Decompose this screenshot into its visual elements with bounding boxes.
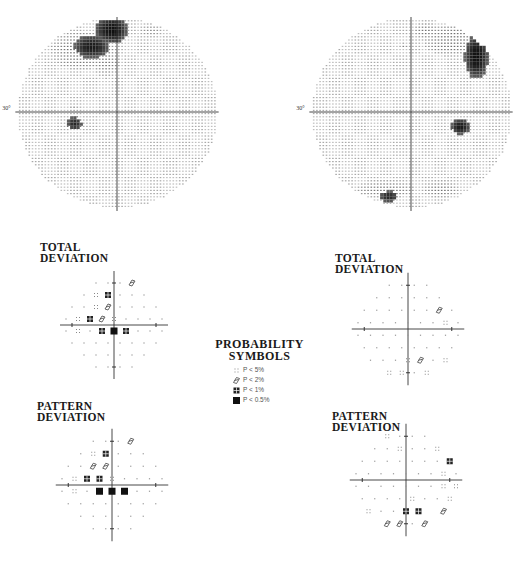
normal-point <box>130 466 131 467</box>
normal-point <box>430 473 431 474</box>
p2-symbol <box>128 438 134 444</box>
normal-point <box>149 318 150 319</box>
normal-point <box>389 285 390 286</box>
normal-point <box>382 322 383 323</box>
normal-point <box>130 516 131 517</box>
normal-point <box>119 366 120 367</box>
p2-symbol <box>441 508 447 514</box>
p05-symbol <box>96 488 103 495</box>
normal-point <box>131 342 132 343</box>
normal-point <box>437 498 438 499</box>
p5-symbol <box>235 368 239 372</box>
normal-point <box>131 306 132 307</box>
normal-point <box>143 516 144 517</box>
normal-point <box>161 478 162 479</box>
normal-point <box>451 347 452 348</box>
normal-point <box>118 466 119 467</box>
normal-point <box>357 335 358 336</box>
normal-point <box>357 322 358 323</box>
normal-point <box>393 511 394 512</box>
normal-point <box>93 441 94 442</box>
normal-point <box>130 528 131 529</box>
normal-point <box>119 294 120 295</box>
normal-point <box>161 318 162 319</box>
normal-point <box>95 282 96 283</box>
p5-symbol <box>444 321 448 325</box>
p2-symbol <box>90 463 96 469</box>
normal-point <box>93 516 94 517</box>
normal-point <box>412 523 413 524</box>
p05-symbol <box>109 488 116 495</box>
axes <box>56 429 169 542</box>
normal-point <box>80 453 81 454</box>
normal-point <box>424 436 425 437</box>
normal-point <box>143 453 144 454</box>
normal-point <box>439 297 440 298</box>
p1-symbol <box>103 451 109 457</box>
normal-point <box>107 366 108 367</box>
eccentricity-label: 30° <box>296 105 305 111</box>
p5-symbol <box>387 371 391 375</box>
normal-point <box>370 335 371 336</box>
right-total-deviation-plot <box>340 270 500 400</box>
normal-point <box>414 297 415 298</box>
p5-symbol <box>400 371 404 375</box>
normal-point <box>399 498 400 499</box>
normal-point <box>374 498 375 499</box>
normal-point <box>89 330 90 331</box>
normal-point <box>407 322 408 323</box>
normal-point <box>136 478 137 479</box>
normal-point <box>389 297 390 298</box>
normal-point <box>95 342 96 343</box>
p5-symbol <box>442 484 446 488</box>
normal-point <box>105 441 106 442</box>
p5-symbol <box>385 434 389 438</box>
normal-point <box>143 306 144 307</box>
p5-symbol <box>442 472 446 476</box>
normal-point <box>80 516 81 517</box>
left-pattern-deviation-plot <box>40 420 190 560</box>
p05-symbol <box>121 488 128 495</box>
normal-point <box>401 297 402 298</box>
normal-point <box>437 461 438 462</box>
normal-point <box>161 491 162 492</box>
normal-point <box>432 360 433 361</box>
p05-symbol <box>233 397 240 404</box>
dense-symbol-icon <box>233 387 240 394</box>
normal-point <box>137 318 138 319</box>
normal-point <box>393 486 394 487</box>
normal-point <box>393 473 394 474</box>
normal-point <box>124 478 125 479</box>
normal-point <box>418 473 419 474</box>
normal-point <box>61 478 62 479</box>
normal-point <box>118 516 119 517</box>
normal-point <box>155 503 156 504</box>
normal-point <box>71 306 72 307</box>
hatched-symbol-icon <box>233 377 240 384</box>
normal-point <box>61 491 62 492</box>
p2-symbol <box>418 357 424 363</box>
normal-point <box>382 335 383 336</box>
normal-point <box>119 354 120 355</box>
normal-point <box>83 294 84 295</box>
normal-point <box>71 342 72 343</box>
normal-point <box>355 486 356 487</box>
normal-point <box>136 491 137 492</box>
normal-point <box>424 461 425 462</box>
p5-symbol <box>425 371 429 375</box>
p1-symbol <box>105 292 111 298</box>
normal-point <box>95 354 96 355</box>
normal-point <box>426 285 427 286</box>
normal-point <box>432 335 433 336</box>
normal-point <box>143 354 144 355</box>
axes <box>60 271 168 379</box>
p5-symbol <box>410 497 414 501</box>
normal-point <box>426 347 427 348</box>
normal-point <box>93 503 94 504</box>
p1-symbol <box>99 328 105 334</box>
normal-point <box>125 318 126 319</box>
normal-point <box>83 342 84 343</box>
normal-point <box>119 342 120 343</box>
normal-point <box>399 436 400 437</box>
normal-point <box>420 335 421 336</box>
